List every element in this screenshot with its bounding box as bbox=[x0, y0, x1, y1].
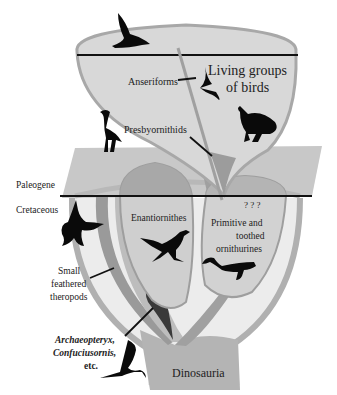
label-living-groups: Living groups bbox=[208, 63, 287, 78]
label-of-birds: of birds bbox=[226, 80, 269, 95]
label-paleogene: Paleogene bbox=[16, 180, 55, 190]
label-small: Small bbox=[58, 266, 81, 276]
label-confuciusornis: Confuciusornis, bbox=[53, 348, 116, 358]
label-presbyornithids: Presbyornithids bbox=[124, 124, 187, 135]
label-anseriforms: Anseriforms bbox=[128, 76, 178, 87]
label-dinosauria: Dinosauria bbox=[172, 366, 225, 380]
label-feathered: feathered bbox=[51, 279, 87, 289]
label-unknown: ? ? ? bbox=[244, 200, 260, 210]
label-archaeopteryx: Archaeopteryx, bbox=[54, 335, 115, 345]
label-theropods: theropods bbox=[50, 292, 88, 302]
label-primitive-and: Primitive and bbox=[211, 218, 263, 228]
label-ornithurines: ornithurines bbox=[216, 244, 262, 254]
bird-evolution-diagram: Living groups of birds Anseriforms Presb… bbox=[0, 0, 337, 395]
label-enantiornithes: Enantiornithes bbox=[131, 213, 187, 223]
label-toothed: toothed bbox=[236, 231, 265, 241]
label-cretaceous: Cretaceous bbox=[16, 205, 59, 215]
label-etc: etc. bbox=[84, 361, 98, 371]
